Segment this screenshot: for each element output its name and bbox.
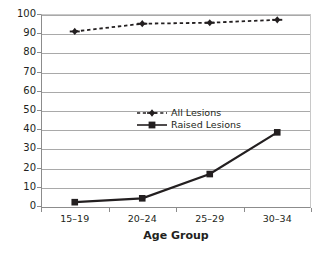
solid-line-with-square-marker-icon (137, 119, 167, 131)
dashed-line-with-marker-icon (137, 107, 167, 119)
x-axis-tick (311, 208, 312, 212)
legend-item-all-lesions: All Lesions (137, 107, 257, 119)
data-point-marker (71, 199, 78, 206)
x-axis-tick (244, 208, 245, 212)
y-axis-tick-label: 70 (6, 67, 36, 77)
series-all-lesions (70, 16, 283, 35)
y-axis-tick-label: 20 (6, 163, 36, 173)
x-axis-tick (109, 208, 110, 212)
x-axis-tick-label: 20–24 (112, 213, 172, 224)
y-axis-tick-label: 80 (6, 47, 36, 57)
y-axis-tick-label: 60 (6, 86, 36, 96)
y-axis-tick-label: 10 (6, 182, 36, 192)
x-axis-title: Age Group (41, 229, 311, 242)
legend-label: Raised Lesions (171, 119, 241, 131)
x-axis-tick-label: 25–29 (180, 213, 240, 224)
data-point-marker (139, 195, 146, 202)
legend-label: All Lesions (171, 107, 221, 119)
legend: All Lesions Raised Lesions (137, 107, 257, 131)
y-axis-tick-label: 0 (6, 201, 36, 211)
series-raised-lesions (71, 129, 280, 205)
data-point-marker (274, 129, 281, 136)
line-chart: 100 90 80 70 60 50 40 30 20 10 0 15–19 2… (0, 0, 323, 253)
x-axis-tick-label: 30–34 (247, 213, 307, 224)
y-axis-tick-label: 50 (6, 105, 36, 115)
y-axis-tick-label: 90 (6, 28, 36, 38)
data-point-marker (206, 171, 213, 178)
y-axis-tick-label: 30 (6, 143, 36, 153)
y-axis-tick-label: 100 (6, 9, 36, 19)
x-axis-tick (41, 208, 42, 212)
x-axis-tick-label: 15–19 (45, 213, 105, 224)
legend-item-raised-lesions: Raised Lesions (137, 119, 257, 131)
y-axis-tick-label: 40 (6, 124, 36, 134)
x-axis-tick (176, 208, 177, 212)
